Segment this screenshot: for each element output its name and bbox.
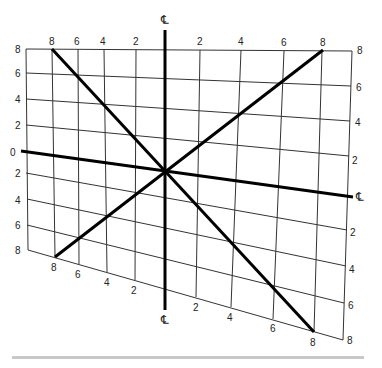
svg-text:4: 4 [15, 195, 21, 206]
svg-text:4: 4 [355, 117, 361, 128]
top-labels: 8 6 4 2 2 4 6 8 [49, 36, 326, 48]
bottom-divider-bar [12, 356, 364, 359]
svg-text:2: 2 [197, 36, 203, 47]
grid-frame [26, 49, 352, 340]
svg-text:6: 6 [281, 37, 287, 48]
svg-text:8: 8 [357, 45, 363, 56]
svg-text:2: 2 [133, 36, 139, 47]
perspective-grid-diagram: ℄ ℄ ℄ 8 6 4 2 2 4 6 8 8 6 4 2 0 2 4 6 8 … [0, 0, 382, 368]
svg-text:2: 2 [352, 155, 358, 166]
bottom-labels: 8 6 4 2 2 4 6 8 [51, 262, 316, 348]
svg-text:4: 4 [227, 312, 233, 323]
centerline-label-right: ℄ [355, 190, 364, 204]
svg-text:8: 8 [49, 36, 55, 47]
svg-text:8: 8 [15, 245, 21, 256]
svg-text:6: 6 [74, 36, 80, 47]
svg-text:6: 6 [15, 68, 21, 79]
svg-text:6: 6 [75, 269, 81, 280]
svg-text:8: 8 [347, 335, 353, 346]
svg-text:2: 2 [15, 120, 21, 131]
svg-text:8: 8 [15, 44, 21, 55]
svg-text:2: 2 [131, 285, 137, 296]
svg-text:0: 0 [10, 147, 16, 158]
svg-text:2: 2 [15, 168, 21, 179]
svg-text:4: 4 [100, 36, 106, 47]
svg-text:6: 6 [270, 323, 276, 334]
svg-text:8: 8 [320, 37, 326, 48]
svg-text:8: 8 [310, 337, 316, 348]
svg-text:2: 2 [350, 227, 356, 238]
svg-text:6: 6 [15, 220, 21, 231]
svg-text:4: 4 [349, 264, 355, 275]
svg-text:2: 2 [193, 302, 199, 313]
horizontal-centerline [21, 151, 353, 197]
centerline-label-top: ℄ [160, 13, 169, 27]
diagonal-line-descending [52, 49, 314, 332]
left-labels: 8 6 4 2 0 2 4 6 8 [10, 44, 21, 256]
diagonal-line-ascending [55, 50, 323, 257]
svg-text:6: 6 [348, 300, 354, 311]
svg-text:8: 8 [51, 262, 57, 273]
svg-text:4: 4 [104, 277, 110, 288]
svg-text:4: 4 [238, 36, 244, 47]
centerline-label-bottom: ℄ [160, 313, 169, 327]
svg-text:4: 4 [15, 94, 21, 105]
svg-text:6: 6 [356, 82, 362, 93]
